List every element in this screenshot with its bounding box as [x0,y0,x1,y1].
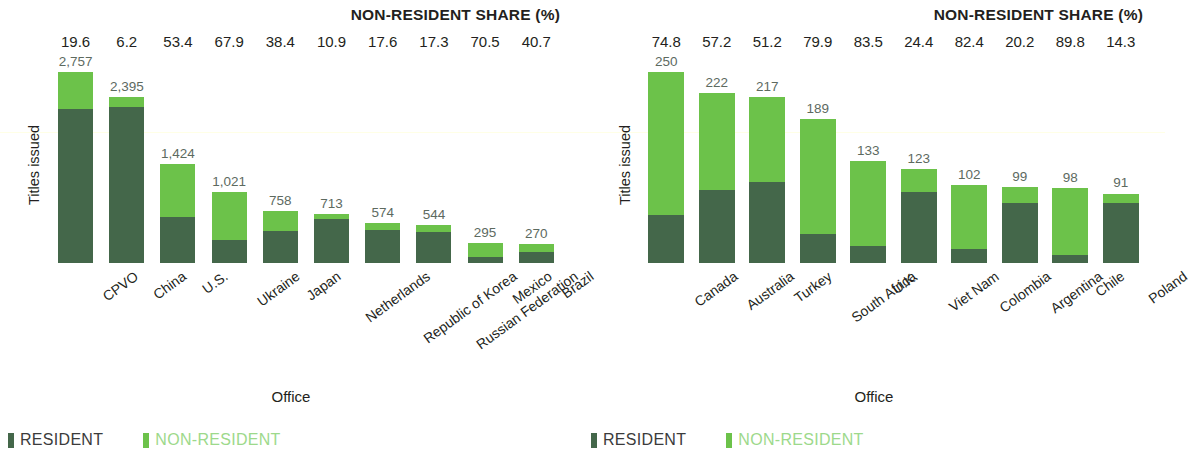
bar-value-label: 1,424 [161,146,195,161]
stacked-bar[interactable] [416,225,451,263]
bar-segment-nonresident [850,161,886,246]
bar-segment-resident [1103,203,1139,263]
bar-segment-nonresident [160,164,195,217]
stacked-bar[interactable] [58,72,93,263]
non-resident-share-value: 17.3 [408,33,459,50]
legend-entry-nonresident[interactable]: NON-RESIDENT [726,431,863,449]
bar-segment-nonresident [1002,187,1038,202]
x-axis-title-left: Office [0,388,582,405]
bar-slot: 2,395 [101,72,152,263]
bar-segment-nonresident [109,97,144,107]
legend-left: RESIDENT NON-RESIDENT [8,431,281,449]
bar-value-label: 133 [857,143,880,158]
bar-segment-resident [416,232,451,263]
bar-slot: 574 [357,72,408,263]
bar-value-label: 295 [474,225,497,240]
stacked-bar[interactable] [800,119,836,263]
bar-segment-resident [109,107,144,263]
stacked-bar[interactable] [648,72,684,263]
bar-segment-resident [850,246,886,263]
bar-value-label: 189 [806,101,829,116]
bar-value-label: 99 [1012,169,1027,184]
stacked-bar[interactable] [1002,187,1038,263]
legend-right: RESIDENT NON-RESIDENT [591,431,864,449]
bar-value-label: 574 [371,205,394,220]
legend-entry-nonresident[interactable]: NON-RESIDENT [143,431,280,449]
bar-segment-resident [699,190,735,263]
bar-slot: 98 [1045,72,1096,263]
stacked-bar[interactable] [951,185,987,263]
legend-label-nonresident: NON-RESIDENT [738,431,863,449]
stacked-bar[interactable] [1103,193,1139,263]
x-axis-tick-label: Netherlands [362,268,432,325]
legend-entry-resident[interactable]: RESIDENT [591,431,686,449]
non-resident-share-value: 74.8 [641,33,692,50]
x-axis-tick-label: Viet Nam [946,268,1002,315]
plot-area-left: 2,7572,3951,4241,021758713574544295270 [50,72,562,263]
non-resident-share-value: 79.9 [793,33,844,50]
stacked-bar[interactable] [212,192,247,263]
non-resident-share-value: 14.3 [1096,33,1147,50]
bar-slot: 1,424 [152,72,203,263]
stacked-bar[interactable] [160,164,195,263]
non-resident-share-value: 38.4 [255,33,306,50]
non-resident-share-value: 70.5 [460,33,511,50]
bar-segment-nonresident [648,72,684,215]
bar-slot: 2,757 [50,72,101,263]
x-axis-tick-label: Japan [304,268,344,303]
stacked-bar[interactable] [314,214,349,263]
bar-value-label: 91 [1113,175,1128,190]
non-resident-share-value: 17.6 [357,33,408,50]
bar-value-label: 123 [907,151,930,166]
stacked-bar[interactable] [901,169,937,263]
bar-segment-resident [519,252,554,263]
stacked-bar[interactable] [468,243,503,263]
bar-slot: 250 [641,72,692,263]
stacked-bar[interactable] [365,223,400,263]
bar-slot: 713 [306,72,357,263]
non-resident-share-value: 57.2 [692,33,743,50]
stacked-bar[interactable] [850,161,886,263]
bar-segment-resident [1002,203,1038,263]
bar-segment-nonresident [749,97,785,182]
legend-label-resident: RESIDENT [20,431,103,449]
bar-segment-resident [951,249,987,263]
chart-panel-right: NON-RESIDENT SHARE (%) 74.857.251.279.98… [583,0,1165,459]
bar-value-label: 102 [958,167,981,182]
stacked-bar[interactable] [749,97,785,263]
bar-value-label: 758 [269,193,292,208]
bar-segment-nonresident [212,192,247,240]
bar-value-label: 222 [705,75,728,90]
stacked-bar[interactable] [699,93,735,263]
x-axis-tick-label: Canada [692,268,741,310]
stacked-bar[interactable] [1052,188,1088,263]
bar-slot: 217 [742,72,793,263]
bar-slot: 102 [944,72,995,263]
stacked-bar[interactable] [519,244,554,263]
bar-segment-nonresident [519,244,554,252]
legend-entry-resident[interactable]: RESIDENT [8,431,103,449]
plot-area-right: 250222217189133123102999891 [641,72,1146,263]
non-resident-share-value: 40.7 [511,33,562,50]
bar-slot: 758 [255,72,306,263]
bar-segment-resident [800,234,836,263]
non-resident-share-value: 53.4 [152,33,203,50]
legend-swatch-nonresident [143,433,149,448]
bar-value-label: 1,021 [212,174,246,189]
non-resident-share-value: 67.9 [204,33,255,50]
stacked-bar[interactable] [263,211,298,264]
bar-value-label: 544 [423,207,446,222]
non-resident-share-value: 6.2 [101,33,152,50]
chart-panel-left: NON-RESIDENT SHARE (%) 19.66.253.467.938… [0,0,582,459]
x-axis-tick-label: CPVO [99,268,141,304]
bar-segment-resident [58,109,93,263]
bar-slot: 1,021 [204,72,255,263]
x-axis-tick-label: Ukraine [254,268,302,309]
x-axis-tick-label: Colombia [997,268,1054,316]
bar-segment-resident [749,182,785,263]
stacked-bar[interactable] [109,97,144,263]
y-axis-label-right: Titles issued [617,125,633,205]
bar-value-label: 2,395 [110,79,144,94]
bar-segment-nonresident [699,93,735,190]
